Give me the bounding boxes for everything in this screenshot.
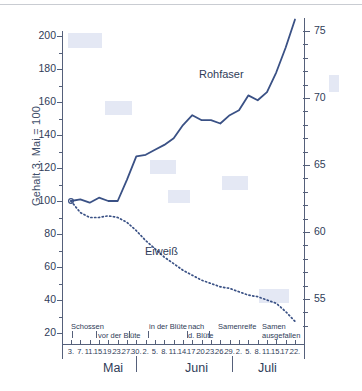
series-label-rohfaser: Rohfaser bbox=[199, 68, 244, 80]
chart-figure: Gehalt 3. Mai = 100 Verdauungsquotient d… bbox=[0, 0, 362, 391]
plot-area bbox=[0, 0, 362, 391]
series-line-rohfaser bbox=[71, 20, 295, 203]
series-line-eiweiss bbox=[71, 201, 295, 321]
series-label-eiweiss: Eiweiß bbox=[145, 245, 178, 257]
